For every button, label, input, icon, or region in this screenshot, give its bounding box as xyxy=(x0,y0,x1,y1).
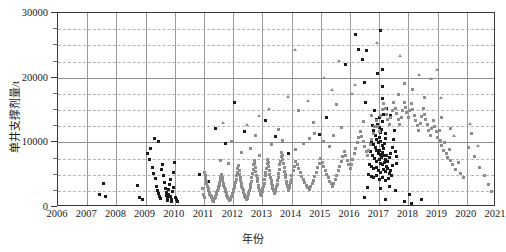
data-point xyxy=(288,184,291,187)
data-point xyxy=(468,122,472,125)
data-point xyxy=(442,149,445,152)
data-point xyxy=(277,128,280,131)
data-point xyxy=(243,130,246,133)
data-point xyxy=(400,116,403,119)
data-point xyxy=(316,166,319,169)
data-point xyxy=(264,174,267,177)
y-minor-tick-mark xyxy=(53,109,57,110)
data-point xyxy=(227,162,230,165)
data-point xyxy=(462,176,465,179)
vertical-gridline xyxy=(350,13,351,205)
x-axis-tick-labels: 2006200720082009201020112012201320142015… xyxy=(0,208,506,228)
data-point xyxy=(429,134,432,137)
vertical-gridline xyxy=(467,13,468,205)
x-tick-label: 2021 xyxy=(485,208,506,219)
data-point xyxy=(214,127,217,130)
x-tick-label: 2017 xyxy=(368,208,389,219)
y-minor-tick-mark xyxy=(53,125,57,126)
data-point xyxy=(254,134,257,137)
data-point xyxy=(330,88,334,91)
data-point xyxy=(388,156,391,159)
data-point xyxy=(281,154,284,157)
data-point xyxy=(261,187,264,190)
data-point xyxy=(395,155,398,158)
vertical-gridline xyxy=(233,13,234,205)
data-point xyxy=(277,172,280,175)
data-point xyxy=(467,146,470,149)
data-point xyxy=(451,163,454,166)
data-point xyxy=(224,142,227,145)
data-point xyxy=(288,186,291,189)
data-point xyxy=(332,182,335,185)
x-tick-label: 2007 xyxy=(76,208,97,219)
x-tick-label: 2008 xyxy=(105,208,126,219)
data-point xyxy=(389,152,392,155)
data-point xyxy=(155,185,158,188)
data-point xyxy=(388,185,391,188)
data-point xyxy=(154,177,157,180)
y-minor-tick-mark xyxy=(53,61,57,62)
data-point xyxy=(172,171,175,174)
data-point xyxy=(264,119,267,122)
data-point xyxy=(293,48,297,51)
data-point xyxy=(367,149,370,152)
y-tick-mark xyxy=(51,141,57,142)
data-point xyxy=(254,170,257,173)
data-point xyxy=(254,166,257,169)
data-point xyxy=(337,169,340,172)
x-tick-label: 2012 xyxy=(222,208,243,219)
data-point xyxy=(172,186,175,189)
data-point xyxy=(362,120,365,123)
data-point xyxy=(245,123,249,126)
data-point xyxy=(381,97,384,100)
data-point xyxy=(408,193,411,196)
data-point xyxy=(306,99,310,102)
data-point xyxy=(332,134,335,137)
data-point xyxy=(274,188,277,191)
data-point xyxy=(363,145,366,148)
data-point xyxy=(366,154,369,157)
data-point xyxy=(308,188,311,191)
data-point xyxy=(157,140,160,143)
data-point xyxy=(296,163,299,166)
data-point xyxy=(315,171,318,174)
data-point xyxy=(361,58,364,61)
data-point xyxy=(340,126,343,129)
data-point xyxy=(390,174,393,177)
data-point xyxy=(267,107,271,110)
data-point xyxy=(439,139,442,142)
data-point xyxy=(253,162,256,165)
data-point xyxy=(449,159,452,162)
data-point xyxy=(381,120,384,123)
data-point xyxy=(411,88,414,91)
data-point xyxy=(379,171,382,174)
data-point xyxy=(353,83,357,86)
data-point xyxy=(102,182,105,185)
data-point xyxy=(429,77,433,80)
data-point xyxy=(159,197,162,200)
data-point xyxy=(438,129,441,132)
data-point xyxy=(294,148,297,151)
data-point xyxy=(338,165,341,168)
data-point xyxy=(388,123,391,126)
data-point xyxy=(384,107,387,110)
data-point xyxy=(286,95,290,98)
data-point xyxy=(313,175,316,178)
data-point xyxy=(290,178,293,181)
data-point xyxy=(379,114,382,117)
data-point xyxy=(340,160,343,163)
data-point xyxy=(268,169,271,172)
data-point xyxy=(262,185,265,188)
data-point xyxy=(364,101,367,104)
data-point xyxy=(386,160,389,163)
y-minor-tick-mark xyxy=(53,174,57,175)
data-point xyxy=(219,159,222,162)
data-point xyxy=(274,135,277,138)
data-point xyxy=(370,114,373,117)
data-point xyxy=(448,148,451,151)
data-point xyxy=(258,154,261,157)
data-point xyxy=(153,137,156,140)
x-tick-label: 2006 xyxy=(47,208,68,219)
data-point xyxy=(321,161,324,164)
data-point xyxy=(257,114,261,117)
